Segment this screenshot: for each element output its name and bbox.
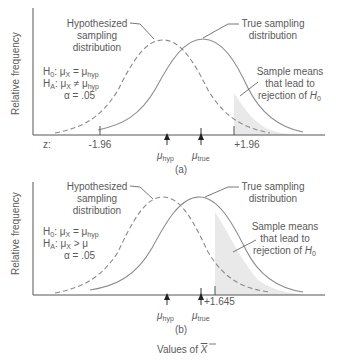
hyp-leader-a: [130, 23, 154, 39]
reject-label-b-2: that lead to: [260, 233, 310, 244]
reject-label-a-1: Sample means: [257, 66, 324, 77]
alpha-text-a: α = .05: [64, 90, 96, 101]
mu-true-label-a: μtrue: [191, 150, 210, 162]
hyp-label-a-2: sampling: [77, 30, 117, 41]
mu-true-label-b: μtrue: [191, 310, 210, 322]
panel-a: Relative frequency Hypothesized sampling…: [10, 8, 325, 175]
panel-b: Relative frequency Hypothesized sampling…: [10, 181, 325, 335]
hyp-leader-b: [130, 186, 153, 199]
mu-hyp-label-a: μhyp: [156, 150, 174, 163]
reject-label-b-1: Sample means: [252, 221, 319, 232]
mu-hyp-label-b: μhyp: [156, 310, 174, 323]
true-label-b-2: distribution: [249, 193, 297, 204]
true-leader-a: [203, 24, 239, 38]
ha-text-b: HA: μX > μ: [43, 238, 88, 250]
figure: Relative frequency Hypothesized sampling…: [0, 0, 341, 363]
z-prefix-a: z:: [43, 139, 51, 150]
mu-true-arrow-icon: [198, 133, 204, 140]
panel-label-b: (b): [175, 324, 187, 335]
true-leader-b: [205, 187, 239, 197]
x-axis-label: Values of X: [157, 344, 208, 355]
pos-crit-label-b: +1.645: [204, 296, 235, 307]
reject-label-a-3: rejection of H0: [258, 90, 321, 102]
y-axis-label-a: Relative frequency: [10, 32, 21, 115]
alpha-text-b: α = .05: [64, 250, 96, 261]
hyp-label-a-3: distribution: [73, 42, 121, 53]
panel-label-a: (a): [175, 164, 187, 175]
true-label-a-1: True sampling: [242, 18, 305, 29]
y-axis-label-b: Relative frequency: [10, 192, 21, 275]
true-label-a-2: distribution: [249, 30, 297, 41]
hyp-label-b-3: distribution: [73, 205, 121, 216]
mu-hyp-arrow-icon: [164, 133, 170, 140]
reject-label-b-3: rejection of H0: [253, 245, 316, 257]
mu-hyp-arrow-icon: [164, 293, 170, 300]
hyp-label-b-2: sampling: [77, 193, 117, 204]
reject-label-a-2: that lead to: [265, 78, 315, 89]
neg-crit-label-a: -1.96: [89, 139, 112, 150]
true-label-b-1: True sampling: [242, 181, 305, 192]
pos-crit-label-a: +1.96: [234, 139, 260, 150]
reject-leader-a: [240, 82, 258, 96]
hyp-label-a-1: Hypothesized: [67, 18, 128, 29]
hyp-label-b-1: Hypothesized: [67, 181, 128, 192]
